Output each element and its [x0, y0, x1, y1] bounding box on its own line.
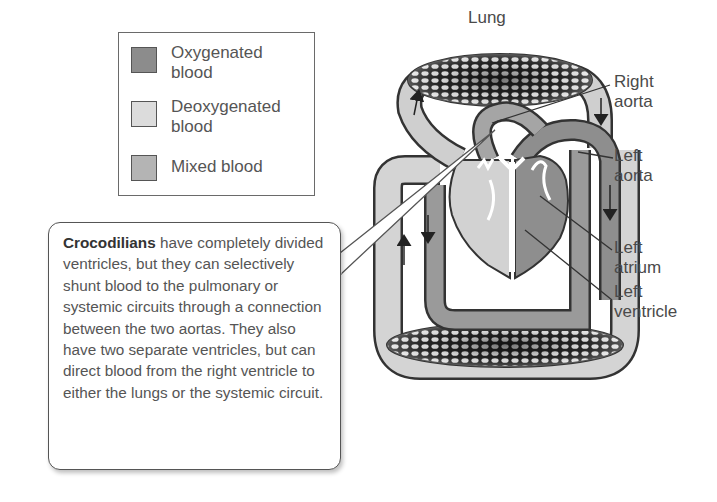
left-ventricle-label: Left ventricle: [614, 282, 677, 322]
left-atrium-label: Left atrium: [614, 238, 661, 278]
callout-box: Crocodilians have completely divided ven…: [48, 222, 341, 470]
lung-label: Lung: [468, 8, 506, 28]
right-ventricle: [450, 160, 510, 278]
right-aorta-label: Right aorta: [614, 72, 654, 112]
callout-bold-term: Crocodilians: [63, 234, 156, 251]
left-aorta-label: Left aorta: [614, 146, 653, 186]
left-ventricle-chamber: [515, 156, 568, 278]
callout-body: have completely divided ventricles, but …: [63, 234, 323, 401]
callout-text: Crocodilians have completely divided ven…: [63, 232, 328, 403]
